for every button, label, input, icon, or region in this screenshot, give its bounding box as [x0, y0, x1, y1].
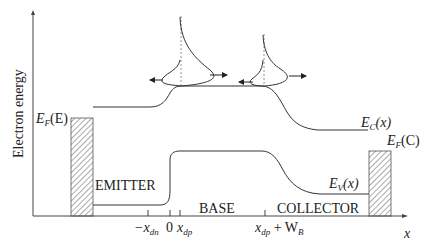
electron-distribution-left — [150, 16, 227, 86]
conduction-band-curve — [93, 86, 368, 130]
y-axis-arrow-icon — [31, 10, 35, 15]
tick-label-neg-xdn: −xdn — [134, 220, 159, 237]
region-label-emitter: EMITTER — [95, 178, 156, 193]
tick-label-xdp: xdp — [176, 220, 193, 237]
tick-label-zero: 0 — [166, 220, 173, 235]
label-fermi-emitter: EF(E) — [35, 111, 68, 128]
label-valence-band: EV(x) — [328, 176, 359, 193]
collector-fermi-block — [369, 151, 391, 216]
x-axis-label: x — [403, 226, 411, 241]
x-axis-arrow-icon — [402, 214, 408, 218]
region-label-collector: COLLECTOR — [277, 201, 360, 216]
emitter-fermi-block — [71, 118, 93, 216]
y-axis-label: Electron energy — [11, 69, 26, 158]
band-diagram: Electron energy x EMITTER BASE COLLECTOR… — [0, 0, 427, 248]
label-conduction-band: EC(x) — [360, 115, 391, 132]
label-fermi-collector: EF(C) — [386, 133, 420, 150]
tick-label-xdp-plus-wb: xdp + WB — [254, 220, 304, 237]
electron-distribution-right — [239, 34, 306, 86]
region-label-base: BASE — [199, 201, 235, 216]
